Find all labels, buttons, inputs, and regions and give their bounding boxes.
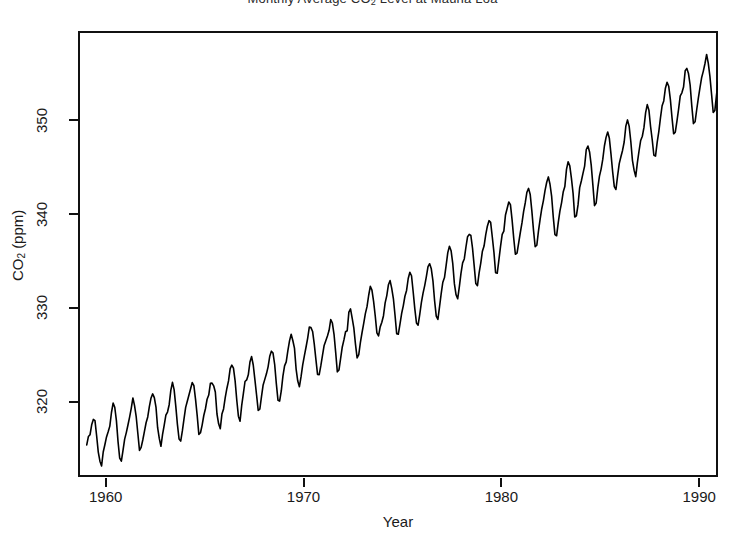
y-tick-label-text: 340 — [34, 202, 51, 227]
chart-title-prefix: Monthly Average CO — [247, 0, 370, 6]
y-axis-title-prefix: CO — [9, 259, 26, 282]
y-tick-label-text: 320 — [34, 389, 51, 414]
y-tick-mark — [69, 401, 78, 403]
x-tick-label: 1980 — [466, 488, 536, 505]
y-tick-mark — [69, 213, 78, 215]
y-tick-label-text: 330 — [34, 295, 51, 320]
y-tick-label: 330 — [22, 288, 62, 328]
y-tick-label: 340 — [22, 194, 62, 234]
y-tick-label: 320 — [22, 382, 62, 422]
y-axis-title-suffix: (ppm) — [9, 210, 26, 253]
chart-title-suffix: Level at Mauna Loa — [376, 0, 498, 6]
x-axis-title: Year — [78, 513, 718, 530]
x-tick-mark — [500, 478, 502, 487]
x-tick-mark — [698, 478, 700, 487]
y-tick-label-text: 350 — [34, 108, 51, 133]
chart-title: Monthly Average CO2 Level at Mauna Loa — [0, 0, 745, 7]
y-tick-label: 350 — [22, 100, 62, 140]
x-tick-label: 1970 — [269, 488, 339, 505]
x-tick-label: 1990 — [664, 488, 734, 505]
x-tick-mark — [303, 478, 305, 487]
co2-line-chart-figure: Monthly Average CO2 Level at Mauna Loa 3… — [0, 0, 745, 543]
y-axis-title: CO2 (ppm) — [9, 185, 28, 305]
y-tick-mark — [69, 307, 78, 309]
x-tick-label: 1960 — [71, 488, 141, 505]
x-tick-mark — [105, 478, 107, 487]
co2-series-line — [87, 54, 718, 465]
y-tick-mark — [69, 119, 78, 121]
data-line-plot — [78, 31, 718, 477]
y-axis-title-subscript: 2 — [16, 253, 27, 259]
